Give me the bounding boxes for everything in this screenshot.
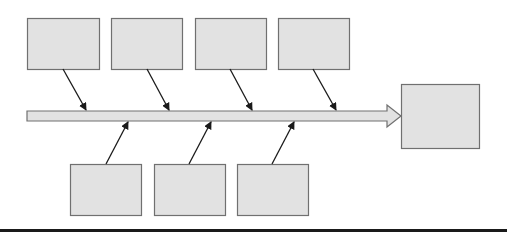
cause-box-top-1 xyxy=(28,19,100,70)
cause-arrow-6 xyxy=(189,122,211,164)
cause-arrow-7 xyxy=(272,122,294,164)
effect-box xyxy=(402,85,480,149)
bottom-border-bar xyxy=(0,229,507,232)
cause-arrow-3 xyxy=(230,69,252,110)
cause-box-top-2 xyxy=(112,19,183,70)
cause-box-bottom-3 xyxy=(238,165,309,216)
cause-boxes-top xyxy=(28,19,350,70)
cause-arrow-4 xyxy=(313,69,336,110)
cause-box-bottom-2 xyxy=(155,165,226,216)
cause-arrow-1 xyxy=(63,69,86,110)
cause-box-bottom-1 xyxy=(71,165,142,216)
fishbone-diagram xyxy=(0,0,507,232)
effect-box-rect xyxy=(402,85,480,149)
cause-box-top-4 xyxy=(279,19,350,70)
cause-arrow-5 xyxy=(106,122,128,164)
cause-arrow-2 xyxy=(147,69,169,110)
cause-boxes-bottom xyxy=(71,165,309,216)
cause-box-top-3 xyxy=(196,19,267,70)
spine-arrow xyxy=(27,105,401,127)
